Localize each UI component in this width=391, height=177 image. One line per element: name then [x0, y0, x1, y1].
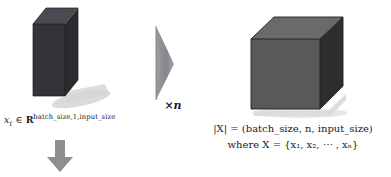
repeat-shard	[152, 26, 184, 106]
input-slab	[33, 6, 123, 116]
slab-caption: xt ∈ Rbatch_size,1,input_size	[4, 114, 115, 127]
multiplier-prefix: ×	[164, 99, 173, 112]
cube-front-face	[251, 39, 320, 109]
figure-canvas: xt ∈ Rbatch_size,1,input_size ×n	[0, 0, 391, 177]
down-arrow-shape	[47, 140, 73, 172]
cube-caption-line1: |X| = (batch_size, n, input_size)	[198, 122, 388, 136]
repeat-multiplier-label: ×n	[155, 99, 191, 112]
cube-shadow-soft	[252, 108, 348, 118]
slab-caption-subscript: t	[9, 120, 12, 128]
cube-caption-line2: where X = {x₁, x₂, ⋯ , xₙ}	[198, 138, 388, 152]
multiplier-symbol: n	[174, 99, 182, 112]
slab-caption-exponent: batch_size,1,input_size	[33, 113, 115, 121]
cube-caption: |X| = (batch_size, n, input_size) where …	[198, 122, 388, 151]
slab-caption-relation: ∈	[15, 114, 22, 125]
slab-front-face	[33, 24, 65, 96]
down-arrow	[44, 140, 76, 177]
sequence-cube	[248, 16, 358, 126]
